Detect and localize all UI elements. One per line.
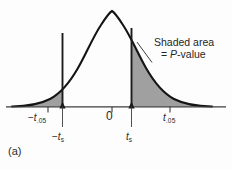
- panel-tag: (a): [8, 145, 21, 157]
- neg-t-stat-subscript: s: [61, 136, 65, 143]
- t-distribution-figure: Shaded area = P-value −t.05 0 t.05 −ts t…: [0, 0, 232, 169]
- axis-label-zero: 0: [106, 110, 113, 123]
- axis-label-pos-t-crit: t.05: [163, 112, 176, 123]
- axis-label-pos-t-stat: ts: [126, 131, 132, 142]
- pos-t-crit-subscript: .05: [166, 117, 176, 124]
- callout-line-2: = P-value: [154, 49, 214, 61]
- axis-label-neg-t-crit: −t.05: [28, 112, 46, 123]
- neg-t-crit-subscript: .05: [37, 117, 47, 124]
- callout-equals: =: [161, 48, 170, 60]
- axis-label-neg-t-stat: −ts: [52, 131, 64, 142]
- callout-value-word: -value: [177, 48, 206, 60]
- shaded-area-callout: Shaded area = P-value: [154, 37, 214, 61]
- distribution-plot: [0, 0, 232, 169]
- pos-t-stat-subscript: s: [129, 136, 133, 143]
